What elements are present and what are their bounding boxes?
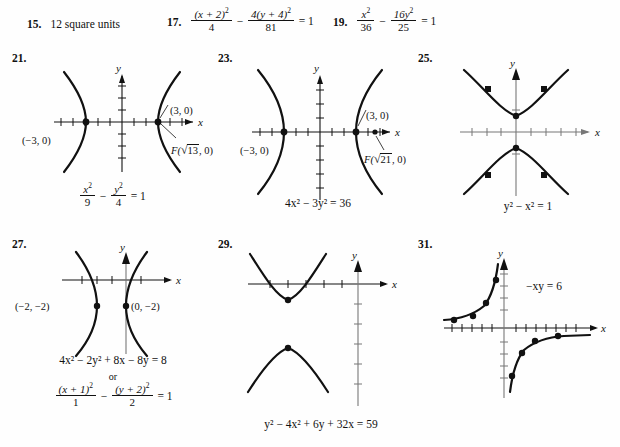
y-axis-arrow	[122, 252, 130, 264]
plot-point-upper-left	[485, 86, 491, 92]
vertex-upper	[513, 113, 519, 119]
vertex-lower	[513, 145, 519, 151]
vertex-right	[353, 129, 360, 136]
minus-operator: −	[237, 15, 244, 27]
hyperbola-branch-upper-left	[444, 264, 498, 320]
problem-27: 27. x y	[12, 238, 212, 438]
x-axis-label: x	[175, 274, 181, 286]
problem-21-label-right-vertex: (3, 0)	[170, 105, 193, 116]
leader-focus	[161, 124, 176, 138]
x-axis-arrow	[164, 277, 172, 283]
problem-31-graph: x y	[430, 246, 610, 406]
x-axis-arrow	[581, 129, 590, 135]
problem-23-label-left-vertex: (−3, 0)	[240, 145, 269, 156]
problem-23-graph: x y	[232, 60, 412, 205]
fraction-left-numerator: x2	[357, 8, 374, 20]
problem-23-label-focus: F(√21, 0)	[364, 152, 406, 167]
plot-point-a3	[483, 300, 489, 306]
hyperbola-chart-31: x y	[430, 246, 610, 406]
vertex-left	[94, 303, 100, 309]
problem-21-graph: x y	[30, 60, 215, 180]
problem-25-graph: x y	[450, 58, 610, 198]
problem-27-number: 27.	[12, 238, 26, 250]
problem-31: 31.	[418, 238, 613, 438]
plot-point-b3	[532, 338, 538, 344]
problem-27-graph: x y	[42, 244, 202, 356]
problem-23: 23.	[218, 52, 413, 227]
problem-29-number: 29.	[218, 238, 232, 250]
x-axis-label: x	[197, 116, 203, 128]
y-axis-label: y	[313, 62, 319, 74]
hyperbola-left-branch-lower	[64, 122, 86, 172]
plot-point-lower-left	[485, 172, 491, 178]
fraction-left: (x + 2)2 4	[191, 8, 231, 34]
caption-fraction-right: y2 4	[111, 183, 126, 209]
vertex-left	[281, 129, 288, 136]
fraction-right-numerator: 4(y + 4)2	[248, 8, 294, 20]
problem-27-caption: 4x² − 2y² + 8x − 8y = 8	[18, 354, 208, 366]
problem-23-number: 23.	[218, 52, 232, 64]
focus-point	[372, 129, 377, 134]
fraction-left-denominator: 4	[191, 20, 231, 34]
hyperbola-chart-25: x y	[450, 58, 610, 198]
answer-17-equation: (x + 2)2 4 − 4(y + 4)2 81 = 1	[189, 9, 314, 35]
x-axis-arrow	[380, 281, 388, 287]
answer-19-number: 19.	[333, 16, 347, 28]
plot-point-lower-right	[541, 172, 547, 178]
y-axis-arrow	[119, 74, 125, 83]
plot-point-upper-right	[541, 86, 547, 92]
equals-value: = 1	[299, 15, 314, 27]
x-axis-label: x	[394, 126, 400, 138]
y-axis-arrow	[500, 258, 508, 270]
fraction-right-denominator: 25	[391, 20, 417, 34]
fraction-left: x2 36	[357, 8, 374, 34]
leader-focus	[376, 136, 384, 150]
y-axis-arrow	[512, 68, 520, 80]
hyperbola-left-branch-lower	[258, 132, 284, 194]
caption2-fraction-right: (y + 2)2 2	[112, 383, 152, 409]
caption-fraction-left: x2 9	[80, 183, 95, 209]
plot-point-b1	[509, 373, 515, 379]
x-axis-arrow	[185, 119, 193, 125]
x-axis-label: x	[594, 126, 600, 138]
problem-27-label-left-vertex: (−2, −2)	[15, 301, 50, 312]
plot-point-a4	[493, 277, 499, 283]
problem-25-number: 25.	[418, 52, 432, 64]
hyperbola-chart-27: x y	[42, 244, 202, 356]
answer-key-page: 15. 12 square units 17. (x + 2)2 4 − 4(y…	[0, 0, 620, 447]
y-axis-label: y	[351, 249, 357, 261]
problem-21-label-focus: F(√13, 0)	[171, 143, 213, 158]
vertex-right	[155, 119, 162, 126]
x-axis-arrow	[590, 325, 598, 331]
answer-19-equation: x2 36 − 16y2 25 = 1	[355, 9, 436, 35]
fraction-left-numerator: (x + 2)2	[191, 8, 231, 20]
problem-29-equation: y² − 4x² + 6y + 32x = 59	[264, 418, 377, 430]
problem-29: 29.	[218, 238, 413, 438]
top-answer-row: 15. 12 square units 17. (x + 2)2 4 − 4(y…	[0, 0, 620, 46]
answer-17: 17. (x + 2)2 4 − 4(y + 4)2 81 = 1	[167, 9, 314, 35]
plot-point-a1	[451, 317, 457, 323]
answer-15-number: 15.	[27, 18, 41, 30]
x-axis-arrow	[382, 129, 390, 135]
plot-point-a2	[470, 313, 476, 319]
problem-21-caption: x2 9 − y2 4 = 1	[57, 184, 167, 210]
hyperbola-upper-branch	[250, 254, 326, 300]
answer-15: 15. 12 square units	[27, 18, 120, 30]
vertex-upper	[285, 297, 291, 303]
plot-point-b4	[555, 333, 561, 339]
problem-25-caption: y² − x² = 1	[458, 200, 598, 212]
answer-15-text: 12 square units	[50, 18, 120, 30]
problem-27-or: or	[18, 371, 208, 382]
fraction-right-denominator: 81	[248, 20, 294, 34]
x-axis-label: x	[391, 278, 397, 290]
x-axis-label: x	[600, 322, 606, 334]
problem-21-label-left-vertex: (−3, 0)	[22, 135, 51, 146]
fraction-left-denominator: 36	[357, 20, 374, 34]
hyperbola-chart-21: x y	[30, 60, 215, 180]
y-axis-label: y	[497, 247, 503, 259]
hyperbola-left-branch	[76, 252, 97, 356]
equals-value: = 1	[421, 15, 436, 27]
y-axis-label: y	[115, 62, 121, 74]
plot-point-b2	[519, 350, 525, 356]
hyperbola-lower-branch	[248, 348, 328, 392]
